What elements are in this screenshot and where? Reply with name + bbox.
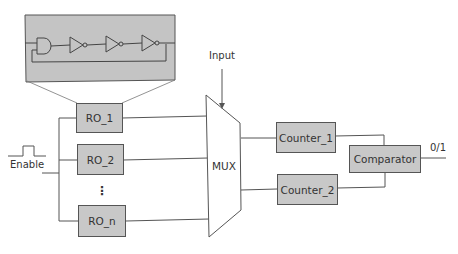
enable-label: Enable <box>10 159 44 170</box>
mux-label: MUX <box>212 160 236 172</box>
ro-1-block: RO_1 <box>76 103 123 133</box>
input-label: Input <box>209 50 235 61</box>
ro-ellipsis: ⋮ <box>96 184 108 198</box>
ro-n-label: RO_n <box>88 215 115 227</box>
zoom-line-right <box>122 80 175 103</box>
ro-n-block: RO_n <box>78 205 126 237</box>
comparator-block: Comparator <box>349 145 421 173</box>
diagram-wires <box>0 0 458 254</box>
ro-2-block: RO_2 <box>77 144 124 175</box>
ro-puf-diagram: RO_1 RO_2 ⋮ RO_n MUX Input Enable Counte… <box>0 0 458 254</box>
zoom-line-left <box>27 81 77 103</box>
counter-1-label: Counter_1 <box>279 132 333 144</box>
comparator-label: Comparator <box>354 153 417 165</box>
ro-1-label: RO_1 <box>86 112 114 124</box>
and-gate-icon <box>37 38 51 54</box>
counter-2-label: Counter_2 <box>281 184 335 196</box>
ro-2-label: RO_2 <box>87 154 115 166</box>
enable-pulse-icon <box>8 146 46 156</box>
output-label: 0/1 <box>430 142 446 153</box>
counter-1-block: Counter_1 <box>276 122 336 153</box>
counter-2-block: Counter_2 <box>277 174 338 205</box>
